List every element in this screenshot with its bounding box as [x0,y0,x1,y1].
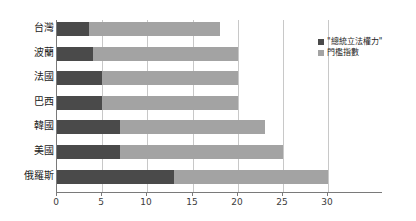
bar-segment-threshold [174,170,328,184]
legend-item-threshold: 門檻指數 [318,47,382,58]
tick-label-10: 10 [140,197,151,208]
bar-segment-power [57,96,102,110]
tick-mark-30 [327,192,328,196]
bar-segment-power [57,47,93,61]
category-label-france: 法國 [34,71,54,83]
bar-segment-threshold [102,96,238,110]
bar-segment-threshold [120,145,283,159]
category-label-brazil: 巴西 [34,96,54,108]
category-label-korea: 韓國 [34,120,54,132]
tick-label-30: 30 [321,197,332,208]
tick-label-0: 0 [53,197,59,208]
legend-label: "總統立法權力" [327,36,382,47]
chart-legend: "總統立法權力" 門檻指數 [318,36,382,58]
x-axis-line [56,192,382,193]
gridline-25 [283,20,284,192]
legend-item-power: "總統立法權力" [318,36,382,47]
category-label-poland: 波蘭 [34,47,54,59]
bar-segment-threshold [120,120,265,134]
bar-segment-power [57,170,174,184]
bar-segment-power [57,71,102,85]
bar-segment-threshold [89,22,220,36]
category-label-usa: 美國 [34,145,54,157]
tick-label-20: 20 [231,197,242,208]
tick-mark-10 [146,192,147,196]
bar-chart: 台灣 波蘭 法國 巴西 韓國 美國 俄羅斯 0 5 10 15 20 [0,0,416,221]
category-label-taiwan: 台灣 [34,22,54,34]
tick-mark-0 [56,192,57,196]
tick-label-15: 15 [186,197,197,208]
bar-segment-threshold [102,71,238,85]
tick-mark-5 [101,192,102,196]
bar-segment-power [57,120,120,134]
tick-mark-20 [237,192,238,196]
tick-label-5: 5 [98,197,104,208]
legend-label: 門檻指數 [327,47,359,58]
legend-swatch-icon [318,50,324,56]
bar-segment-power [57,22,89,36]
legend-swatch-icon [318,39,324,45]
tick-mark-15 [192,192,193,196]
tick-mark-25 [282,192,283,196]
category-label-russia: 俄羅斯 [24,170,54,182]
bar-segment-threshold [93,47,238,61]
bar-segment-power [57,145,120,159]
tick-label-25: 25 [276,197,287,208]
gridline-20 [238,20,239,192]
